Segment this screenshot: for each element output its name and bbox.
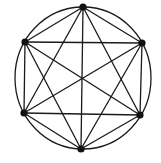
edge-upper-right-lower-left [24, 43, 142, 113]
edge-upper-right-upper-left [25, 42, 142, 43]
vertex-bottom [77, 145, 84, 152]
edge-upper-right-lower-right [140, 43, 142, 115]
edge-top-upper-left [25, 7, 83, 42]
complete-graph-diagram [0, 0, 161, 163]
vertex-lower-left [20, 109, 27, 116]
vertex-lower-right [136, 111, 143, 118]
vertex-upper-left [21, 38, 28, 45]
edge-lower-left-upper-left [24, 42, 25, 113]
graph-edges [24, 7, 142, 149]
edge-bottom-lower-left [24, 113, 81, 149]
edge-lower-right-bottom [81, 115, 140, 149]
vertex-upper-right [138, 39, 145, 46]
vertex-top [79, 3, 86, 10]
edge-upper-right-bottom [81, 43, 142, 149]
